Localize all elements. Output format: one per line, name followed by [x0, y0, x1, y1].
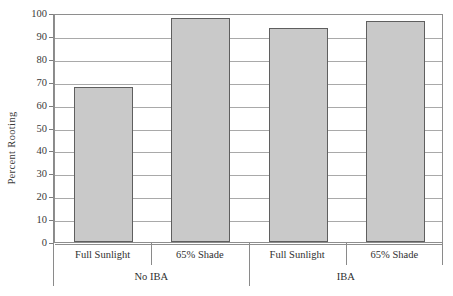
y-tick-label: 50 [7, 123, 47, 134]
bar-chart-figure: Percent Rooting 1009080706050403020100 F… [0, 0, 453, 296]
y-tick-label: 70 [7, 77, 47, 88]
x-group-label: IBA [286, 271, 406, 282]
bar [366, 21, 425, 242]
bar [74, 87, 133, 242]
y-tick-label: 30 [7, 169, 47, 180]
x-group-label: No IBA [91, 271, 211, 282]
y-tick-label: 100 [7, 9, 47, 20]
y-axis-spine [53, 14, 54, 286]
x-axis-divider [346, 243, 347, 265]
y-tick-label: 20 [7, 192, 47, 203]
plot-area [54, 14, 443, 243]
x-axis-divider [442, 243, 443, 265]
y-tick-label: 60 [7, 100, 47, 111]
y-tick-label: 80 [7, 55, 47, 66]
bar [171, 18, 230, 242]
x-category-label: 65% Shade [334, 249, 453, 260]
y-tick-label: 40 [7, 146, 47, 157]
bar [269, 28, 328, 242]
x-axis-divider [249, 243, 250, 286]
y-tick-label: 90 [7, 32, 47, 43]
y-tick-label: 10 [7, 215, 47, 226]
y-tick-label: 0 [7, 238, 47, 249]
x-axis-divider [151, 243, 152, 265]
